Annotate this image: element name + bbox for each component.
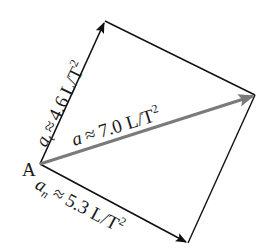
edge-top-right (105, 21, 255, 95)
an-unit: L/T (87, 202, 122, 234)
a-approx: ≈ (82, 123, 98, 146)
svg-text:a≈7.0L/T2: a≈7.0L/T2 (68, 101, 162, 150)
label-an: an≈5.3L/T2 (31, 171, 129, 240)
point-a-label: A (22, 159, 36, 180)
vector-diagram: A at≈4.6L/T2 a≈7.0L/T2 an≈5.3L/T2 (0, 0, 275, 252)
svg-text:an≈5.3L/T2: an≈5.3L/T2 (31, 171, 129, 240)
edge-right-bottom (188, 95, 255, 243)
at-symbol: a (31, 132, 54, 150)
at-value: 4.6 (44, 93, 73, 124)
svg-text:at≈4.6L/T2: at≈4.6L/T2 (29, 57, 92, 151)
a-symbol: a (69, 127, 84, 150)
label-at: at≈4.6L/T2 (29, 57, 92, 151)
an-value: 5.3 (62, 189, 93, 219)
label-a: a≈7.0L/T2 (68, 101, 162, 150)
